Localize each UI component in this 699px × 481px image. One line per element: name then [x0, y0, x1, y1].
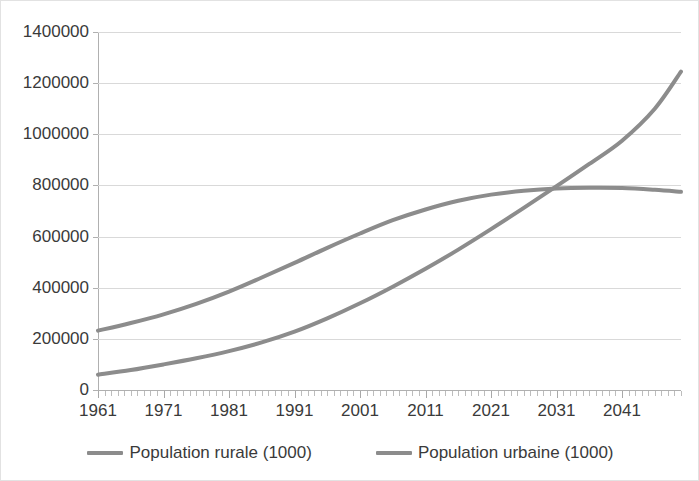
x-axis-minor-tick [635, 391, 636, 396]
x-axis-minor-tick [629, 391, 630, 396]
x-axis-tick-label: 1961 [79, 402, 117, 419]
y-axis-tick-label: 200000 [32, 330, 89, 347]
x-axis-major-tick [360, 391, 361, 398]
x-axis-minor-tick [249, 391, 250, 396]
x-axis-minor-tick [268, 391, 269, 396]
x-axis-minor-tick [386, 391, 387, 396]
x-axis-minor-tick [111, 391, 112, 396]
x-axis-minor-tick [380, 391, 381, 396]
x-axis-minor-tick [216, 391, 217, 396]
x-axis-major-tick [229, 391, 230, 398]
x-axis-minor-tick [275, 391, 276, 396]
x-axis-major-tick [426, 391, 427, 398]
x-axis-major-tick [557, 391, 558, 398]
x-axis-tick-label: 2001 [341, 402, 379, 419]
legend-label: Population urbaine (1000) [418, 444, 614, 461]
x-axis-minor-tick [308, 391, 309, 396]
x-axis-minor-tick [255, 391, 256, 396]
x-axis-minor-tick [399, 391, 400, 396]
y-axis-tick-label: 1200000 [23, 74, 89, 91]
x-axis-minor-tick [373, 391, 374, 396]
x-axis-minor-tick [242, 391, 243, 396]
x-axis-minor-tick [674, 391, 675, 396]
legend-entry[interactable]: Population urbaine (1000) [376, 444, 614, 461]
x-axis-minor-tick [668, 391, 669, 396]
x-axis-minor-tick [105, 391, 106, 396]
x-axis-minor-tick [347, 391, 348, 396]
chart-legend: Population rurale (1000)Population urbai… [1, 444, 699, 461]
x-axis-minor-tick [589, 391, 590, 396]
legend-line-swatch [376, 451, 412, 455]
x-axis-minor-tick [353, 391, 354, 396]
x-axis-minor-tick [458, 391, 459, 396]
x-axis-minor-tick [262, 391, 263, 396]
x-axis-minor-tick [301, 391, 302, 396]
x-axis-minor-tick [498, 391, 499, 396]
x-axis-minor-tick [511, 391, 512, 396]
x-axis-minor-tick [118, 391, 119, 396]
x-axis-minor-tick [157, 391, 158, 396]
x-axis-tick-label: 2011 [407, 402, 444, 419]
x-axis-minor-tick [445, 391, 446, 396]
x-axis-tick-label: 1971 [145, 402, 183, 419]
x-axis-minor-tick [530, 391, 531, 396]
x-axis-minor-tick [602, 391, 603, 396]
x-axis-minor-tick [209, 391, 210, 396]
x-axis-minor-tick [576, 391, 577, 396]
x-axis-minor-tick [642, 391, 643, 396]
x-axis-major-tick [98, 391, 99, 398]
x-axis-minor-tick [321, 391, 322, 396]
x-axis-minor-tick [537, 391, 538, 396]
x-axis-tick-label: 2031 [538, 402, 576, 419]
x-axis-minor-tick [504, 391, 505, 396]
legend-label: Population rurale (1000) [129, 444, 311, 461]
x-axis-minor-tick [131, 391, 132, 396]
x-axis-minor-tick [144, 391, 145, 396]
x-axis-minor-tick [432, 391, 433, 396]
legend-line-swatch [87, 451, 123, 455]
x-axis-minor-tick [367, 391, 368, 396]
x-axis-tick-label: 1981 [210, 402, 248, 419]
legend-entry[interactable]: Population rurale (1000) [87, 444, 311, 461]
x-axis-minor-tick [150, 391, 151, 396]
x-axis-minor-tick [412, 391, 413, 396]
line-chart: 0200000400000600000800000100000012000001… [0, 0, 699, 481]
y-axis-tick-label: 600000 [32, 228, 89, 245]
x-axis-ticks [98, 391, 681, 399]
series-container [98, 32, 681, 390]
x-axis-minor-tick [288, 391, 289, 396]
x-axis-minor-tick [570, 391, 571, 396]
x-axis-minor-tick [203, 391, 204, 396]
x-axis-minor-tick [661, 391, 662, 396]
x-axis-minor-tick [543, 391, 544, 396]
x-axis-minor-tick [484, 391, 485, 396]
x-axis-minor-tick [196, 391, 197, 396]
x-axis-minor-tick [550, 391, 551, 396]
x-axis-major-tick [295, 391, 296, 398]
x-axis-minor-tick [609, 391, 610, 396]
x-axis-minor-tick [615, 391, 616, 396]
x-axis-minor-tick [471, 391, 472, 396]
x-axis-minor-tick [406, 391, 407, 396]
plot-area [98, 32, 681, 390]
x-axis-minor-tick [655, 391, 656, 396]
x-axis-minor-tick [517, 391, 518, 396]
x-axis-minor-tick [478, 391, 479, 396]
x-axis-tick-label: 2041 [603, 402, 641, 419]
x-axis-minor-tick [393, 391, 394, 396]
x-axis-minor-tick [124, 391, 125, 396]
x-axis-minor-tick [596, 391, 597, 396]
y-axis-tick-label: 1400000 [23, 23, 89, 40]
x-axis-minor-tick [465, 391, 466, 396]
x-axis-minor-tick [334, 391, 335, 396]
x-axis-minor-tick [583, 391, 584, 396]
y-axis-tick-label: 0 [80, 381, 89, 398]
x-axis-minor-tick [222, 391, 223, 396]
x-axis-minor-tick [327, 391, 328, 396]
y-axis-tick-labels: 0200000400000600000800000100000012000001… [1, 1, 89, 481]
y-axis-tick-label: 1000000 [23, 125, 89, 142]
y-axis-tick-label: 800000 [32, 176, 89, 193]
x-axis-major-tick [622, 391, 623, 398]
x-axis-tick-label: 1991 [276, 402, 314, 419]
x-axis-minor-tick [137, 391, 138, 396]
